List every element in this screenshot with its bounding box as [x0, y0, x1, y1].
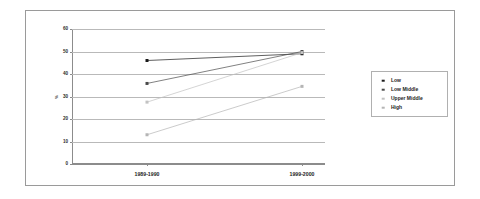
series-line [147, 53, 302, 103]
x-tick-label: 1989-1990 [135, 172, 160, 177]
series-low [146, 52, 304, 62]
data-point-marker [146, 82, 149, 85]
series-line [147, 54, 302, 61]
legend-marker-icon [376, 85, 390, 94]
series-plot [72, 29, 325, 164]
series-line [147, 86, 302, 134]
data-point-marker [301, 85, 304, 88]
series-upper-middle [146, 51, 304, 104]
data-point-marker [146, 101, 149, 104]
legend-marker-icon [376, 94, 390, 103]
x-tick-mark [147, 164, 148, 166]
legend-item-high[interactable]: High [376, 103, 442, 112]
y-tick-label: 40 [63, 72, 68, 77]
legend-marker-icon [376, 76, 390, 85]
series-line [147, 52, 302, 84]
y-tick-label: 30 [63, 94, 68, 99]
data-point-marker [301, 51, 304, 54]
data-point-marker [146, 133, 149, 136]
legend-item-label: Upper Middle [390, 96, 423, 101]
legend-item-label: Low [390, 78, 401, 83]
chart-screenshot: % 0102030405060 1989-19901999-2000 LowLo… [0, 0, 480, 199]
legend-item-low[interactable]: Low [376, 76, 442, 85]
chart-legend: LowLow MiddleUpper MiddleHigh [371, 71, 448, 117]
legend-item-low-middle[interactable]: Low Middle [376, 85, 442, 94]
series-high [146, 85, 304, 136]
y-tick-mark [70, 164, 72, 165]
legend-item-upper-middle[interactable]: Upper Middle [376, 94, 442, 103]
x-tick-mark [302, 164, 303, 166]
x-tick-label: 1999-2000 [290, 172, 315, 177]
gridline [72, 164, 325, 165]
y-tick-label: 0 [65, 162, 68, 167]
series-low-middle [146, 50, 304, 85]
data-point-marker [146, 59, 149, 62]
legend-item-label: High [390, 105, 402, 110]
y-tick-label: 10 [63, 139, 68, 144]
plot-area: % 0102030405060 1989-19901999-2000 [72, 29, 325, 164]
legend-item-label: Low Middle [390, 87, 418, 92]
y-tick-label: 60 [63, 27, 68, 32]
y-tick-label: 50 [63, 49, 68, 54]
y-axis-title: % [55, 95, 59, 99]
legend-marker-icon [376, 103, 390, 112]
y-tick-label: 20 [63, 117, 68, 122]
chart-frame: % 0102030405060 1989-19901999-2000 LowLo… [25, 10, 455, 186]
